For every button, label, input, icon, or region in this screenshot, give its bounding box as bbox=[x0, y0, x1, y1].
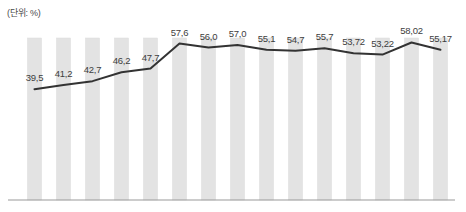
bar bbox=[347, 38, 361, 200]
data-point-label: 42,7 bbox=[84, 64, 101, 75]
bar bbox=[231, 38, 245, 200]
chart-container: (단위: %) 39,541,242,746,247,757,656,057,0… bbox=[0, 0, 466, 212]
bar-group bbox=[28, 38, 448, 200]
data-point-label: 55,7 bbox=[316, 31, 333, 42]
bar bbox=[376, 38, 390, 200]
bar bbox=[202, 38, 216, 200]
bar bbox=[289, 38, 303, 200]
bar bbox=[260, 38, 274, 200]
data-point-label: 56,0 bbox=[200, 31, 217, 42]
bar bbox=[405, 38, 419, 200]
data-point-label: 41,2 bbox=[55, 68, 72, 79]
data-point-label: 54,7 bbox=[287, 34, 304, 45]
bar bbox=[86, 38, 100, 200]
data-point-label: 55,1 bbox=[258, 33, 275, 44]
bar bbox=[28, 38, 42, 200]
bar bbox=[434, 38, 448, 200]
data-point-label: 46,2 bbox=[113, 55, 130, 66]
bar bbox=[57, 38, 71, 200]
data-point-label: 39,5 bbox=[26, 72, 43, 83]
bar bbox=[318, 38, 332, 200]
data-point-label: 53,22 bbox=[371, 38, 393, 49]
bar bbox=[173, 38, 187, 200]
data-point-label: 53,72 bbox=[342, 36, 364, 47]
data-point-label: 57,0 bbox=[229, 28, 246, 39]
data-point-label: 47,7 bbox=[142, 52, 159, 63]
data-point-label: 55,17 bbox=[429, 33, 451, 44]
data-point-label: 57,6 bbox=[171, 27, 188, 38]
data-point-label: 58,02 bbox=[400, 25, 422, 36]
